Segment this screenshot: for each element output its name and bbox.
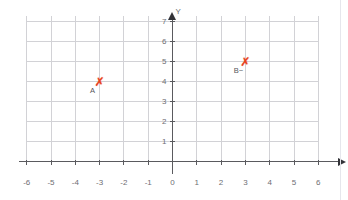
x-axis-tick: [269, 160, 270, 165]
x-axis-tick-label: -3: [92, 178, 108, 187]
x-axis-tick: [221, 160, 222, 165]
gridline-vertical: [75, 16, 76, 162]
x-axis-tick-label: 3: [237, 178, 253, 187]
x-axis-tick: [99, 160, 100, 165]
x-axis-tick-label: 2: [213, 178, 229, 187]
y-axis-tick-label: 6: [155, 37, 167, 46]
x-axis-tick-label: 5: [286, 178, 302, 187]
gridline-vertical: [245, 16, 246, 162]
x-axis-tick: [196, 160, 197, 165]
y-axis-line: [172, 14, 173, 174]
x-axis-tick: [318, 160, 319, 165]
x-axis-tick: [245, 160, 246, 165]
y-axis-tick-label: 7: [155, 17, 167, 26]
plotted-point-marker: ✗: [95, 76, 105, 88]
gridline-vertical: [196, 16, 197, 162]
plotted-point-label: B~: [234, 67, 243, 75]
y-axis-tick: [170, 61, 175, 62]
y-axis-tick-label: 5: [155, 57, 167, 66]
gridline-vertical: [123, 16, 124, 162]
y-axis-tick: [170, 101, 175, 102]
coordinate-plane-chart: XY-6-5-4-3-2-101234561234567✗A✗B~: [0, 0, 348, 200]
x-axis-tick-label: 4: [262, 178, 278, 187]
x-axis-tick-label: -4: [67, 178, 83, 187]
y-axis-tick-label: 2: [155, 117, 167, 126]
y-axis-tick: [170, 81, 175, 82]
gridline-vertical: [221, 16, 222, 162]
gridline-vertical: [51, 16, 52, 162]
y-axis-tick: [170, 41, 175, 42]
x-axis-tick-label: -6: [19, 178, 35, 187]
x-axis-line: [19, 161, 341, 162]
y-axis-tick-label: 3: [155, 97, 167, 106]
x-axis-tick-label: 0: [165, 178, 181, 187]
gridline-vertical: [26, 16, 27, 162]
gridline-vertical: [99, 16, 100, 162]
x-axis-tick: [26, 160, 27, 165]
x-axis-tick-label: 1: [189, 178, 205, 187]
plotted-point-label: A: [90, 87, 95, 95]
x-axis-tick: [75, 160, 76, 165]
gridline-vertical: [318, 16, 319, 162]
x-axis-tick-label: -5: [43, 178, 59, 187]
x-axis-tick-label: -2: [116, 178, 132, 187]
y-axis-tick: [170, 141, 175, 142]
y-axis-label: Y: [176, 7, 181, 16]
gridline-vertical: [148, 16, 149, 162]
gridline-vertical: [294, 16, 295, 162]
x-axis-tick: [51, 160, 52, 165]
x-axis-tick-label: 6: [310, 178, 326, 187]
x-axis-tick-label: -1: [140, 178, 156, 187]
y-axis-tick: [170, 121, 175, 122]
right-edge-divider: [340, 0, 341, 200]
y-axis-tick-label: 1: [155, 137, 167, 146]
x-axis-tick: [172, 160, 173, 165]
y-axis-tick: [170, 21, 175, 22]
gridline-vertical: [269, 16, 270, 162]
x-axis-tick: [294, 160, 295, 165]
x-axis-tick: [148, 160, 149, 165]
x-axis-tick: [123, 160, 124, 165]
y-axis-tick-label: 4: [155, 77, 167, 86]
